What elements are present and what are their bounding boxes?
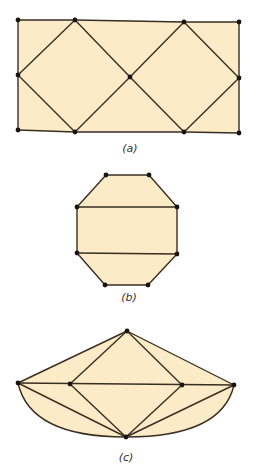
graph-vertex (16, 18, 21, 23)
graph-vertex (16, 381, 21, 386)
graph-vertex (237, 131, 242, 136)
graph-vertex (73, 18, 78, 23)
graph-vertex (175, 252, 180, 257)
panel-b-label: (b) (121, 291, 137, 304)
graph-vertex (124, 435, 129, 440)
graph-vertex (182, 20, 187, 25)
graph-edge (184, 132, 239, 133)
face-region (77, 175, 177, 285)
graph-vertex (75, 251, 80, 256)
graph-vertex (75, 205, 80, 210)
graph-figure: (a) (b) (c) (0, 0, 260, 473)
graph-vertex (175, 205, 180, 210)
graph-vertex (16, 128, 21, 133)
graph-vertex (68, 382, 73, 387)
graph-vertex (180, 383, 185, 388)
graph-vertex (147, 173, 152, 178)
graph-vertex (16, 73, 21, 78)
panel-c-label: (c) (119, 451, 134, 464)
graph-vertex (128, 75, 133, 80)
graph-edge (77, 253, 177, 254)
graph-vertex (125, 329, 130, 334)
panel-b-octagon-graph (75, 173, 180, 288)
panel-a-rectangle-graph (16, 18, 242, 136)
graph-vertex (146, 283, 151, 288)
panel-a-label: (a) (122, 142, 137, 155)
graph-vertex (237, 76, 242, 81)
graph-vertex (73, 130, 78, 135)
graph-vertex (103, 283, 108, 288)
graph-vertex (182, 130, 187, 135)
graph-vertex (232, 383, 237, 388)
graph-vertex (237, 20, 242, 25)
graph-vertex (104, 173, 109, 178)
panel-c-curved-graph (16, 329, 237, 440)
